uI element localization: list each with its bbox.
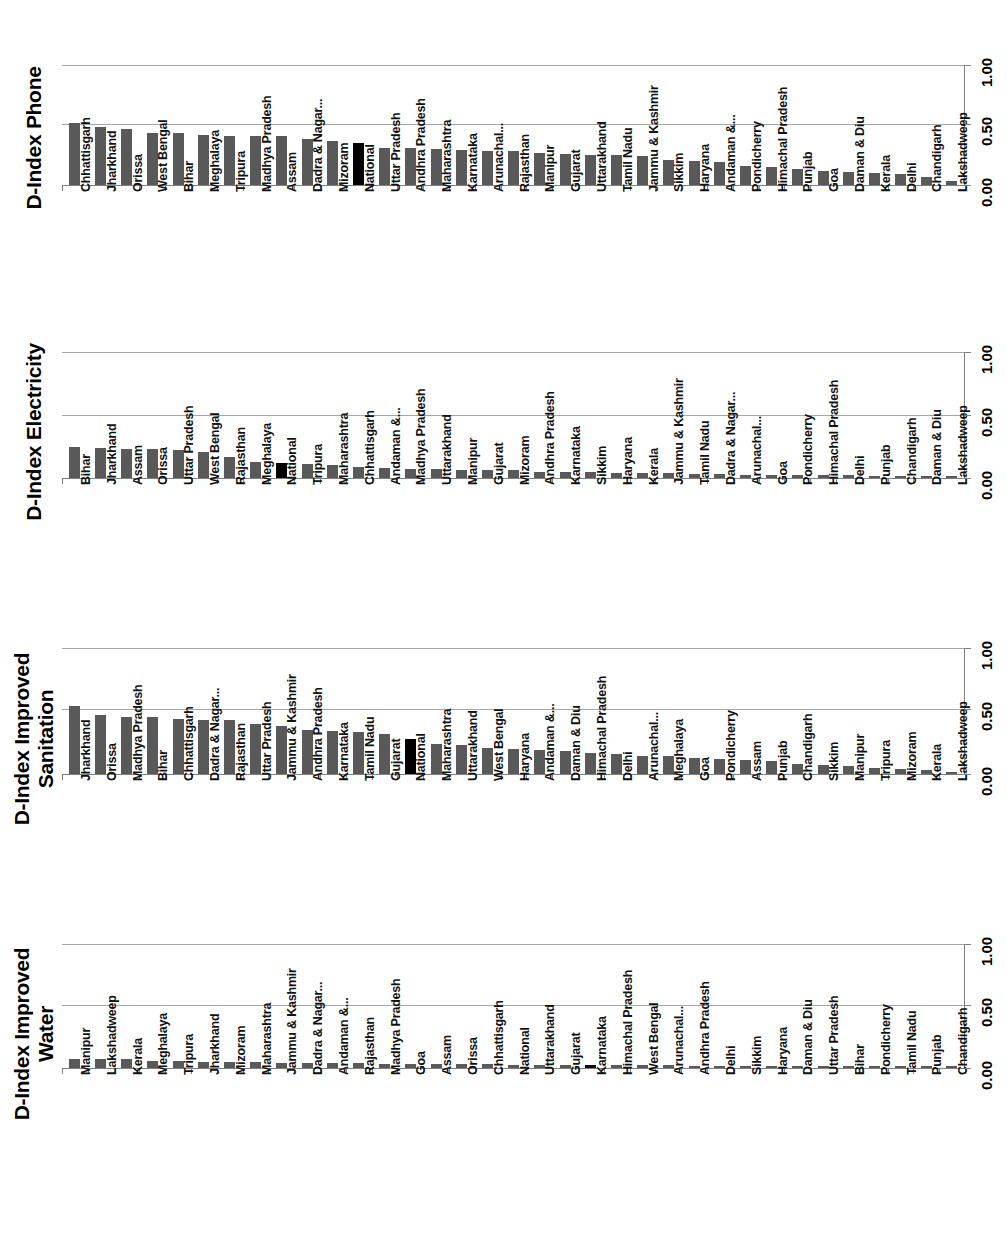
y-tick-mark: [965, 774, 971, 775]
category-label: Lakshadweep: [106, 995, 118, 1075]
category-label: Meghalaya: [673, 719, 685, 781]
y-tick-label: 1.00: [978, 937, 995, 966]
y-tick-mark: [965, 185, 971, 186]
category-label: Haryana: [777, 1027, 789, 1075]
category-label: Haryana: [699, 144, 711, 192]
category-label: Goa: [699, 757, 711, 781]
y-tick-label: 0.50: [978, 117, 995, 146]
category-label: Chhattisgarh: [183, 706, 195, 781]
y-tick-mark: [965, 415, 971, 416]
category-label: National: [519, 1027, 531, 1075]
tick-mark: [62, 1069, 63, 1074]
category-label: Mizoram: [519, 436, 531, 485]
category-label: Andaman &...: [725, 115, 737, 192]
category-label: Daman & Diu: [854, 116, 866, 192]
category-label: Assam: [286, 152, 298, 192]
category-label: Jammu & Kashmir: [286, 968, 298, 1075]
category-label: Andaman &...: [544, 704, 556, 781]
category-label: Tripura: [312, 444, 324, 485]
y-tick-label: 0.00: [978, 1061, 995, 1090]
category-label: Orissa: [467, 1037, 479, 1075]
y-tick-mark: [965, 944, 971, 945]
category-label: Dadra & Nagar...: [312, 99, 324, 192]
category-label: Lakshadweep: [957, 405, 969, 485]
category-label: Jammu & Kashmir: [286, 674, 298, 781]
category-label: Maharashtra: [441, 709, 453, 781]
category-label: Jammu & Kashmir: [673, 378, 685, 485]
category-label: Karnataka: [467, 133, 479, 192]
category-label: Madhya Pradesh: [415, 388, 427, 485]
category-label: Jharkhand: [106, 131, 118, 192]
category-label: Arunachal...: [648, 712, 660, 781]
category-label: Karnataka: [570, 426, 582, 485]
category-label: Chhattisgarh: [493, 1000, 505, 1075]
category-label: Chandigarh: [906, 418, 918, 485]
category-label: Tamil Nadu: [622, 128, 634, 192]
category-label: Punjab: [777, 741, 789, 781]
category-label: Jharkhand: [106, 424, 118, 485]
category-label: Tripura: [235, 151, 247, 192]
y-tick-label: 0.50: [978, 998, 995, 1027]
category-label: Uttarakhand: [467, 710, 479, 781]
category-label: National: [415, 733, 427, 781]
category-label: Uttar Pradesh: [390, 113, 402, 192]
tick-mark: [62, 775, 63, 780]
category-label: National: [364, 144, 376, 192]
category-label: Rajasthan: [235, 427, 247, 485]
y-tick-mark: [965, 1068, 971, 1069]
category-label: Andhra Pradesh: [415, 98, 427, 192]
category-label: Uttar Pradesh: [828, 996, 840, 1075]
category-label: Sikkim: [828, 742, 840, 781]
category-label: Rajasthan: [519, 134, 531, 192]
category-label: Bihar: [183, 161, 195, 192]
category-label: Meghalaya: [157, 1013, 169, 1075]
category-label: Himachal Pradesh: [777, 87, 789, 192]
category-label: Punjab: [880, 445, 892, 485]
category-label: West Bengal: [157, 119, 169, 192]
category-label: Chandigarh: [802, 714, 814, 781]
panel-title: D-Index Improved Water: [10, 884, 58, 1184]
category-label: Delhi: [622, 751, 634, 781]
category-label: Goa: [415, 1051, 427, 1075]
category-label: Manipur: [854, 734, 866, 781]
category-label: Pondicherry: [802, 414, 814, 485]
plot-area: [62, 65, 965, 185]
category-label: Gujarat: [570, 1033, 582, 1075]
category-label: Orissa: [106, 743, 118, 781]
category-label: Maharashtra: [261, 1003, 273, 1075]
category-label: Uttar Pradesh: [183, 406, 195, 485]
category-label: Pondicherry: [880, 1004, 892, 1075]
category-label: Haryana: [622, 437, 634, 485]
bar-series: [62, 65, 965, 185]
y-tick-mark: [965, 352, 971, 353]
category-label: Pondicherry: [751, 121, 763, 192]
category-label: Himachal Pradesh: [596, 676, 608, 781]
category-label: Daman & Diu: [931, 409, 943, 485]
category-label: Tamil Nadu: [906, 1011, 918, 1075]
category-label: Arunachal...: [493, 123, 505, 192]
figure-multi-panel-bar-charts: D-Index PhoneChhattisgarhJharkhandOrissa…: [0, 0, 1007, 1259]
category-label: Meghalaya: [261, 423, 273, 485]
y-tick-label: 0.00: [978, 471, 995, 500]
category-label: Delhi: [725, 1045, 737, 1075]
category-label: Maharashtra: [441, 120, 453, 192]
category-label: Goa: [828, 168, 840, 192]
category-label: Himachal Pradesh: [622, 970, 634, 1075]
category-label: Delhi: [854, 455, 866, 485]
panel-title: D-Index Phone: [22, 0, 46, 288]
category-label: West Bengal: [493, 708, 505, 781]
category-label: Bihar: [854, 1044, 866, 1075]
category-label: Sikkim: [596, 446, 608, 485]
y-tick-label: 1.00: [978, 641, 995, 670]
category-label: Assam: [751, 741, 763, 781]
y-tick-label: 0.50: [978, 408, 995, 437]
category-label: Jharkhand: [80, 720, 92, 781]
category-label: Kerala: [648, 448, 660, 485]
category-label: Dadra & Nagar...: [209, 688, 221, 781]
category-label: Arunachal...: [751, 416, 763, 485]
category-label: Rajasthan: [364, 1017, 376, 1075]
category-label: Karnataka: [338, 722, 350, 781]
y-tick-label: 0.00: [978, 767, 995, 796]
category-label: Andaman &...: [390, 408, 402, 485]
category-label: Haryana: [519, 733, 531, 781]
